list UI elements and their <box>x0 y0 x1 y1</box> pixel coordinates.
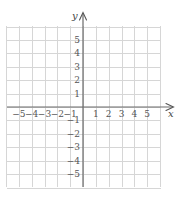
x-axis-title: x <box>168 108 174 119</box>
x-tick-labels: −5−4−3−2−112345 <box>12 109 150 119</box>
x-tick-label: −3 <box>38 109 52 119</box>
y-axis-title: y <box>71 10 78 21</box>
x-tick-label: 1 <box>93 109 99 119</box>
y-tick-label: −3 <box>67 142 81 152</box>
y-tick-label: 1 <box>74 89 80 99</box>
y-tick-label: −2 <box>67 129 80 139</box>
x-tick-label: −4 <box>25 109 39 119</box>
y-tick-label: −1 <box>67 115 80 125</box>
x-tick-label: 5 <box>144 109 150 119</box>
axes <box>7 13 174 188</box>
y-tick-label: −5 <box>67 169 81 179</box>
y-tick-label: 3 <box>74 62 80 72</box>
y-tick-label: 5 <box>74 35 80 45</box>
x-tick-label: 2 <box>106 109 112 119</box>
x-tick-label: 4 <box>131 109 137 119</box>
x-tick-label: 3 <box>119 109 125 119</box>
x-tick-label: −2 <box>51 109 64 119</box>
x-tick-label: −5 <box>12 109 26 119</box>
coordinate-plane: −5−4−3−2−112345 54321−1−2−3−4−5 x y <box>0 0 186 203</box>
y-tick-label: −4 <box>67 156 81 166</box>
y-tick-label: 4 <box>74 48 80 58</box>
y-tick-label: 2 <box>74 75 80 85</box>
